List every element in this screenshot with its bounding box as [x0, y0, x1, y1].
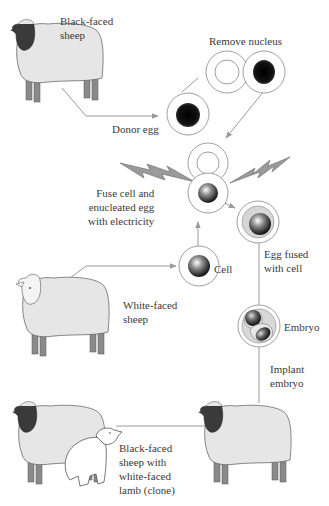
label-black-faced-sheep: Black-faced sheep	[60, 14, 113, 42]
label-donor-egg: Donor egg	[112, 122, 159, 136]
surrogate-sheep	[198, 402, 291, 485]
arrow-sheep-to-donor-egg	[62, 88, 158, 116]
label-egg-fused: Egg fused with cell	[264, 247, 308, 275]
label-fuse-cell: Fuse cell and enucleated egg with electr…	[88, 186, 154, 228]
label-cell: Cell	[214, 262, 232, 276]
label-white-faced-sheep: White-faced sheep	[123, 298, 177, 326]
label-embryo: Embryo	[284, 320, 319, 334]
fusion-cells	[188, 143, 228, 213]
connector-lines	[62, 78, 264, 426]
label-remove-nucleus: Remove nucleus	[209, 34, 282, 48]
lightning-left-icon	[120, 163, 195, 182]
remove-nucleus-cells	[206, 51, 285, 93]
label-result: Black-faced sheep with white-faced lamb …	[119, 441, 175, 497]
donor-egg	[167, 93, 209, 135]
white-faced-sheep	[16, 274, 109, 356]
lightning-right-icon	[230, 157, 290, 183]
label-implant-embryo: Implant embryo	[270, 362, 304, 390]
line-donor-egg-to-remove	[182, 78, 198, 92]
arrow-nucleus-to-fusion	[226, 91, 264, 138]
mother-sheep-with-lamb	[12, 402, 122, 487]
donor-cell	[179, 246, 219, 286]
embryo	[238, 305, 280, 347]
fused-egg	[237, 201, 279, 243]
